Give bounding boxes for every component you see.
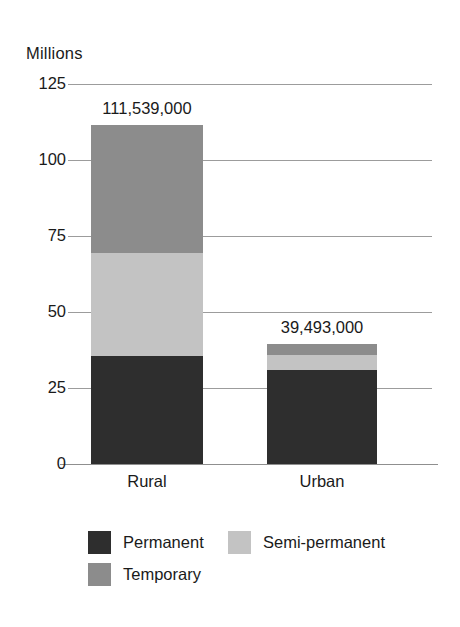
y-tick-label-125: 125 bbox=[38, 74, 66, 93]
y-tick-label-75: 75 bbox=[48, 226, 66, 245]
gridline-125 bbox=[68, 84, 432, 85]
bar-segment-urban-permanent[interactable] bbox=[267, 370, 377, 464]
legend-row-2: Temporary bbox=[88, 558, 428, 590]
legend-label-semi-permanent: Semi-permanent bbox=[263, 533, 385, 552]
bar-segment-rural-temporary[interactable] bbox=[91, 125, 203, 253]
legend-swatch-semi-permanent-icon bbox=[228, 531, 251, 554]
bar-segment-rural-permanent[interactable] bbox=[91, 356, 203, 464]
axis-baseline bbox=[60, 464, 438, 465]
legend-swatch-permanent-icon bbox=[88, 531, 111, 554]
legend-swatch-temporary-icon bbox=[88, 563, 111, 586]
legend-item-temporary[interactable]: Temporary bbox=[88, 563, 228, 586]
y-tick-label-100: 100 bbox=[38, 150, 66, 169]
legend-label-temporary: Temporary bbox=[123, 565, 201, 584]
bar-rural[interactable] bbox=[91, 125, 203, 464]
bar-segment-urban-temporary[interactable] bbox=[267, 344, 377, 355]
legend-item-semi-permanent[interactable]: Semi-permanent bbox=[228, 531, 385, 554]
chart-legend: Permanent Semi-permanent Temporary bbox=[88, 526, 428, 590]
bar-segment-rural-semi-permanent[interactable] bbox=[91, 253, 203, 356]
category-label-urban: Urban bbox=[252, 472, 392, 491]
bar-segment-urban-semi-permanent[interactable] bbox=[267, 355, 377, 370]
legend-row-1: Permanent Semi-permanent bbox=[88, 526, 428, 558]
bar-total-label-rural: 111,539,000 bbox=[77, 99, 217, 118]
legend-label-permanent: Permanent bbox=[123, 533, 204, 552]
y-tick-label-25: 25 bbox=[48, 378, 66, 397]
y-tick-label-50: 50 bbox=[48, 302, 66, 321]
legend-item-permanent[interactable]: Permanent bbox=[88, 531, 228, 554]
category-label-rural: Rural bbox=[77, 472, 217, 491]
stacked-bar-chart: Millions 125 100 75 50 25 0 111,539,000 … bbox=[0, 0, 460, 627]
bar-total-label-urban: 39,493,000 bbox=[252, 318, 392, 337]
bar-urban[interactable] bbox=[267, 344, 377, 464]
y-tick-label-0: 0 bbox=[57, 454, 66, 473]
